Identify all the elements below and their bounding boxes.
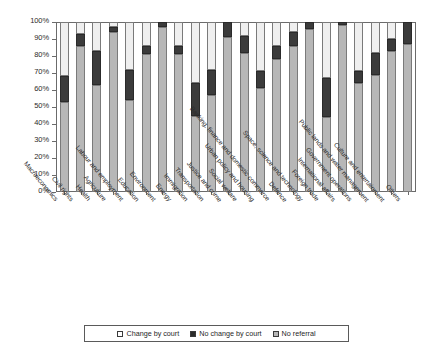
bar-segment-change-by-court xyxy=(174,22,183,46)
bar-segment-no-change-by-court xyxy=(289,32,298,46)
bar-segment-change-by-court xyxy=(109,22,118,27)
bar-segment-change-by-court xyxy=(256,22,265,71)
bar-stack xyxy=(60,22,69,192)
legend-label-no-referral: No referral xyxy=(282,329,316,338)
bar-segment-no-referral xyxy=(256,88,265,192)
bar-segment-no-change-by-court xyxy=(92,51,101,85)
bar-segment-change-by-court xyxy=(387,22,396,39)
legend-label-change-by-court: Change by court xyxy=(126,329,179,338)
bar-stack xyxy=(289,22,298,192)
y-axis-tick-label: 60% xyxy=(34,84,49,93)
bar-segment-no-change-by-court xyxy=(142,46,151,55)
chart-figure: 0%10%20%30%40%50%60%70%80%90%100% Macroe… xyxy=(0,0,432,355)
bar-segment-no-change-by-court xyxy=(371,53,380,75)
bar-segment-change-by-court xyxy=(191,22,200,83)
bar-stack xyxy=(109,22,118,192)
bar-segment-no-referral xyxy=(76,46,85,192)
legend-label-no-change-by-court: No change by court xyxy=(199,329,261,338)
bar-stack xyxy=(403,22,412,192)
y-axis-tick-label: 50% xyxy=(34,101,49,110)
bar-segment-change-by-court xyxy=(322,22,331,78)
bar-segment-change-by-court xyxy=(289,22,298,32)
bar-segment-no-referral xyxy=(109,32,118,192)
bar-segment-change-by-court xyxy=(272,22,281,46)
legend-item-change-by-court: Change by court xyxy=(117,329,179,338)
bar-segment-no-change-by-court xyxy=(354,71,363,83)
legend-swatch-change-by-court xyxy=(117,331,123,337)
legend-swatch-no-change-by-court xyxy=(190,331,196,337)
bar-segment-change-by-court xyxy=(371,22,380,53)
bar-segment-no-referral xyxy=(371,75,380,192)
bar-segment-no-referral xyxy=(403,44,412,192)
bar-segment-no-change-by-court xyxy=(305,22,314,29)
bar-stack xyxy=(158,22,167,192)
y-axis-tick-label: 90% xyxy=(34,33,49,42)
bar-segment-change-by-court xyxy=(92,22,101,51)
x-axis-labels: MacroeconomicsCivil rightsHealthAgricult… xyxy=(0,196,432,306)
bar-segment-no-change-by-court xyxy=(240,36,249,53)
y-axis-tick-label: 20% xyxy=(34,152,49,161)
bar-segment-change-by-court xyxy=(142,22,151,46)
bar-segment-change-by-court xyxy=(60,22,69,76)
bar-segment-no-change-by-court xyxy=(109,27,118,32)
bar-segment-no-change-by-court xyxy=(158,22,167,27)
y-axis-tick-label: 70% xyxy=(34,67,49,76)
y-axis-tick-label: 100% xyxy=(30,16,49,25)
bar-segment-no-change-by-court xyxy=(256,71,265,88)
bar-segment-change-by-court xyxy=(125,22,134,70)
bar-stack xyxy=(256,22,265,192)
bar-segment-no-referral xyxy=(142,54,151,192)
bar-segment-change-by-court xyxy=(354,22,363,71)
y-axis-tick-label: 80% xyxy=(34,50,49,59)
bar-segment-change-by-court xyxy=(207,22,216,70)
legend-swatch-no-referral xyxy=(273,331,279,337)
x-axis-tick-mark xyxy=(408,192,409,195)
bar-segment-change-by-court xyxy=(240,22,249,36)
bar-segment-no-change-by-court xyxy=(76,34,85,46)
bar-segment-no-change-by-court xyxy=(223,22,232,37)
y-axis-tick-label: 40% xyxy=(34,118,49,127)
bar-stack xyxy=(76,22,85,192)
legend-item-no-referral: No referral xyxy=(273,329,316,338)
bar-segment-no-change-by-court xyxy=(207,70,216,96)
bar-segment-no-change-by-court xyxy=(60,76,69,102)
bar-segment-no-referral xyxy=(158,27,167,192)
bar-segment-no-change-by-court xyxy=(322,78,331,117)
bar-segment-no-change-by-court xyxy=(174,46,183,55)
bar-segment-change-by-court xyxy=(76,22,85,34)
y-axis-tick-label: 30% xyxy=(34,135,49,144)
bar-segment-no-change-by-court xyxy=(338,22,347,25)
chart-legend: Change by court No change by court No re… xyxy=(84,325,349,342)
bar-stack xyxy=(142,22,151,192)
bar-segment-no-referral xyxy=(60,102,69,192)
bar-stack xyxy=(125,22,134,192)
bar-stack xyxy=(371,22,380,192)
bar-stack xyxy=(387,22,396,192)
bar-segment-no-change-by-court xyxy=(387,39,396,51)
bar-segment-no-change-by-court xyxy=(403,22,412,44)
bar-segment-no-change-by-court xyxy=(125,70,134,101)
bar-segment-no-referral xyxy=(387,51,396,192)
legend-item-no-change-by-court: No change by court xyxy=(190,329,261,338)
bar-segment-no-change-by-court xyxy=(272,46,281,60)
